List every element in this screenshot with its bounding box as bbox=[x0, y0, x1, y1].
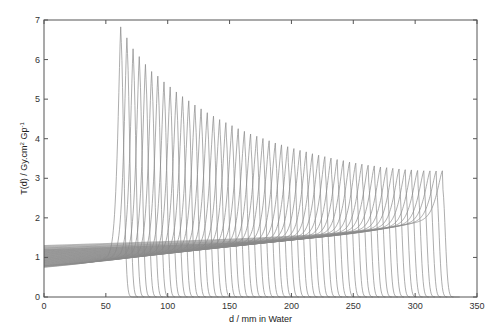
bragg-curve-10 bbox=[44, 92, 194, 297]
bragg-curve-53 bbox=[44, 171, 460, 297]
bragg-curve-40 bbox=[44, 164, 379, 297]
y-tick-label: 7 bbox=[35, 15, 40, 25]
x-tick-label: 350 bbox=[469, 301, 484, 311]
bragg-curve-15 bbox=[44, 113, 225, 297]
y-axis-label-main: T(d) / Gy.cm bbox=[19, 145, 29, 194]
bragg-curve-37 bbox=[44, 161, 361, 297]
y-axis-label-sup2: -1 bbox=[19, 122, 25, 128]
y-tick-label: 6 bbox=[35, 55, 40, 65]
bragg-curve-17 bbox=[44, 120, 237, 297]
x-tick-label: 150 bbox=[222, 301, 237, 311]
bragg-curve-24 bbox=[44, 138, 280, 297]
bragg-curve-51 bbox=[44, 171, 447, 297]
bragg-curve-46 bbox=[44, 169, 416, 297]
bragg-curve-33 bbox=[44, 155, 336, 297]
bragg-curve-22 bbox=[44, 134, 268, 297]
y-tick-label: 4 bbox=[35, 134, 40, 144]
y-tick-label: 1 bbox=[35, 252, 40, 262]
x-tick-label: 100 bbox=[160, 301, 175, 311]
y-axis-label-mid: Gp bbox=[19, 128, 29, 143]
y-tick-label: 0 bbox=[35, 292, 40, 302]
x-tick-label: 0 bbox=[41, 301, 46, 311]
x-axis-ticks: 050100150200250300350 bbox=[41, 20, 484, 311]
y-tick-label: 5 bbox=[35, 94, 40, 104]
y-axis-label: T(d) / Gy.cm2 Gp-1 bbox=[19, 122, 29, 195]
x-tick-label: 250 bbox=[346, 301, 361, 311]
x-tick-label: 300 bbox=[408, 301, 423, 311]
x-tick-label: 50 bbox=[101, 301, 111, 311]
bragg-curve-chart: 050100150200250300350 01234567 d / mm in… bbox=[0, 0, 501, 334]
curves-group bbox=[44, 27, 460, 297]
y-tick-label: 2 bbox=[35, 213, 40, 223]
x-axis-label: d / mm in Water bbox=[229, 314, 292, 324]
bragg-curve-19 bbox=[44, 126, 249, 297]
bragg-curve-29 bbox=[44, 149, 311, 297]
y-tick-label: 3 bbox=[35, 173, 40, 183]
bragg-curve-35 bbox=[44, 158, 348, 297]
x-tick-label: 200 bbox=[284, 301, 299, 311]
bragg-curve-38 bbox=[44, 162, 367, 297]
bragg-curve-31 bbox=[44, 152, 324, 297]
bragg-curve-26 bbox=[44, 143, 293, 297]
